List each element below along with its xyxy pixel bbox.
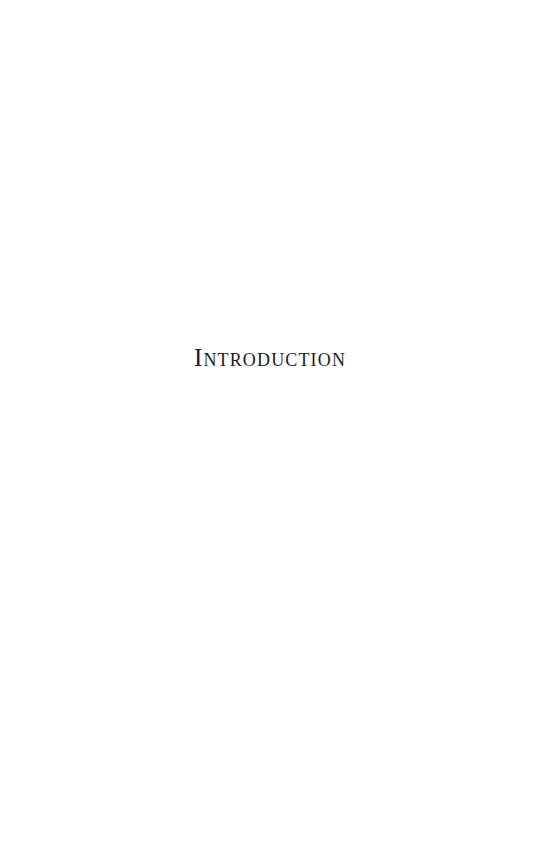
part-title: Introduction xyxy=(0,345,540,370)
document-page: Introduction xyxy=(0,0,540,868)
part-title-text: Introduction xyxy=(194,345,346,370)
page-text-block: Introduction xyxy=(0,0,540,868)
